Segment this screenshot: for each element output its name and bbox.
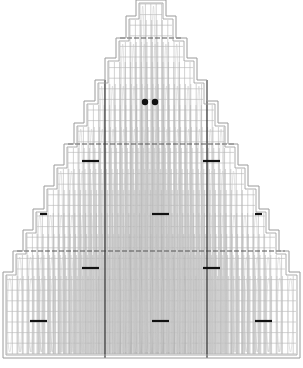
dot-marker <box>142 99 148 105</box>
dot-marker <box>152 99 158 105</box>
stitch-loop <box>8 278 12 352</box>
pyramid-chart-diagram <box>0 0 303 368</box>
stitch-loop <box>288 278 292 352</box>
